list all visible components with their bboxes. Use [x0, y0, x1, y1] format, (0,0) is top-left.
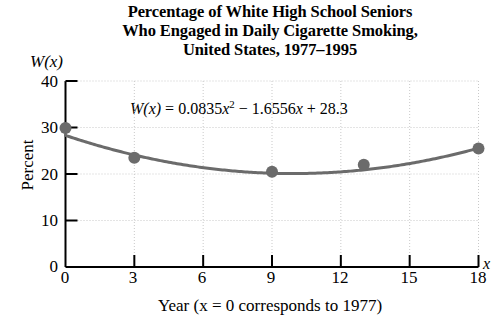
plot-area [0, 0, 499, 331]
chart-figure: Percentage of White High School Seniors … [0, 0, 499, 331]
data-point [60, 122, 72, 134]
data-point [266, 166, 278, 178]
data-point [358, 159, 370, 171]
data-point [473, 142, 485, 154]
data-points [60, 122, 485, 178]
data-point [128, 152, 140, 164]
